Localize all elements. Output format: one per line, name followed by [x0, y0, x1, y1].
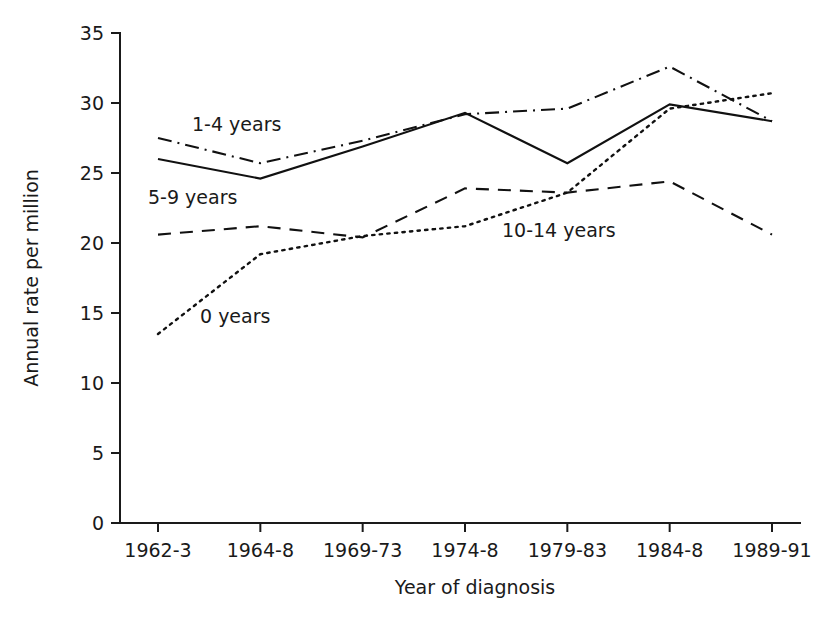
x-tick-label-1989-91: 1989-91: [732, 539, 811, 561]
series-label-1-4-years: 1-4 years: [192, 113, 281, 135]
x-tick-label-1979-83: 1979-83: [528, 539, 607, 561]
series-label-5-9-years: 5-9 years: [148, 186, 237, 208]
x-axis-title: Year of diagnosis: [394, 576, 555, 598]
y-tick-label-20: 20: [80, 232, 104, 254]
axis-spines: [120, 33, 800, 523]
x-tick-label-1969-73: 1969-73: [323, 539, 402, 561]
y-tick-label-5: 5: [92, 442, 104, 464]
x-tick-label-1974-8: 1974-8: [431, 539, 498, 561]
line-chart: 051015202530351962-31964-81969-731974-81…: [0, 0, 839, 621]
y-tick-label-30: 30: [80, 92, 104, 114]
y-tick-label-25: 25: [80, 162, 104, 184]
y-tick-label-15: 15: [80, 302, 104, 324]
y-axis-title: Annual rate per million: [20, 169, 42, 387]
chart-figure: 051015202530351962-31964-81969-731974-81…: [0, 0, 839, 621]
x-tick-label-1984-8: 1984-8: [636, 539, 703, 561]
y-tick-label-35: 35: [80, 22, 104, 44]
series-label-0-years: 0 years: [200, 305, 270, 327]
series-line-10-14-years: [158, 181, 772, 237]
y-tick-label-0: 0: [92, 512, 104, 534]
y-tick-label-10: 10: [80, 372, 104, 394]
chart-annotations: 1-4 years5-9 years0 years10-14 years: [148, 113, 616, 327]
x-tick-label-1962-3: 1962-3: [124, 539, 191, 561]
chart-series: [158, 67, 772, 334]
series-label-10-14-years: 10-14 years: [502, 219, 616, 241]
x-tick-label-1964-8: 1964-8: [227, 539, 294, 561]
